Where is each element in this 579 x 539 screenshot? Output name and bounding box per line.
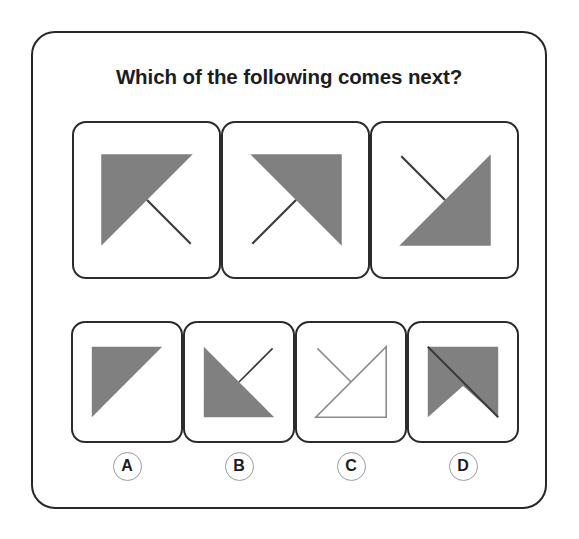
option-a-label[interactable]: A	[113, 452, 142, 481]
option-labels-row: A B C D	[71, 449, 520, 483]
option-c-label-cell: C	[295, 449, 407, 483]
triangle-up-left-icon	[87, 342, 167, 422]
option-d-panel[interactable]	[407, 321, 519, 443]
sequence-panel-3	[370, 121, 519, 279]
triangle-up-left-with-line-icon	[95, 148, 199, 252]
triangle-up-right-with-line-icon	[244, 148, 348, 252]
option-c-panel[interactable]	[295, 321, 407, 443]
option-a-panel[interactable]	[71, 321, 183, 443]
option-a-label-cell: A	[71, 449, 183, 483]
option-b-label[interactable]: B	[225, 452, 254, 481]
puzzle-card: Which of the following comes next?	[31, 31, 547, 509]
triangle-down-right-outline-with-line-icon	[311, 342, 391, 422]
option-d-label[interactable]: D	[449, 452, 478, 481]
options-row	[71, 321, 520, 443]
option-c-label[interactable]: C	[337, 452, 366, 481]
sequence-panel-2	[221, 121, 370, 279]
option-d-label-cell: D	[407, 449, 519, 483]
page-title: Which of the following comes next?	[33, 65, 545, 89]
triangle-down-left-with-line-icon	[199, 342, 279, 422]
option-b-label-cell: B	[183, 449, 295, 483]
sequence-panel-1	[72, 121, 221, 279]
sequence-row	[72, 121, 519, 279]
option-b-panel[interactable]	[183, 321, 295, 443]
notched-square-with-diagonal-icon	[423, 342, 503, 422]
triangle-down-right-with-line-icon	[393, 148, 497, 252]
